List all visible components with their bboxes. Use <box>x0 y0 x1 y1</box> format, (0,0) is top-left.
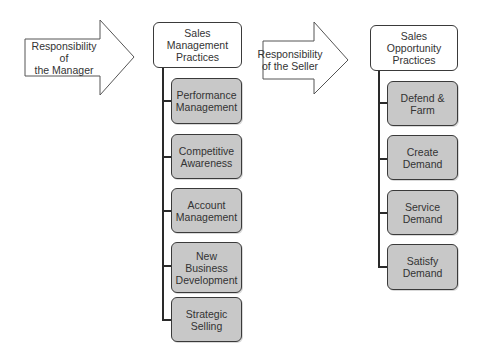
account-management-box: Account Management <box>171 188 242 233</box>
arrow-label: Responsibility of the Seller <box>263 41 317 79</box>
performance-management-box: Performance Management <box>171 78 242 124</box>
competitive-awareness-box: Competitive Awareness <box>171 134 242 179</box>
create-demand-box: Create Demand <box>387 135 458 180</box>
opportunity-connector-trunk <box>378 70 380 267</box>
sales-opportunity-practices-header: Sales Opportunity Practices <box>370 25 458 71</box>
defend-and-farm-box: Defend & Farm <box>387 81 458 126</box>
sales-management-practices-header: Sales Management Practices <box>153 22 242 68</box>
manager-responsibility-arrow: Responsibility of the Manager <box>24 19 136 97</box>
arrow-label: Responsibility of the Manager <box>26 39 102 76</box>
satisfy-demand-box: Satisfy Demand <box>387 244 458 290</box>
strategic-selling-box: Strategic Selling <box>171 297 242 342</box>
management-connector-trunk <box>162 67 164 320</box>
new-business-development-box: New Business Development <box>171 242 242 293</box>
seller-responsibility-arrow: Responsibility of the Seller <box>262 21 350 96</box>
service-demand-box: Service Demand <box>387 190 458 235</box>
